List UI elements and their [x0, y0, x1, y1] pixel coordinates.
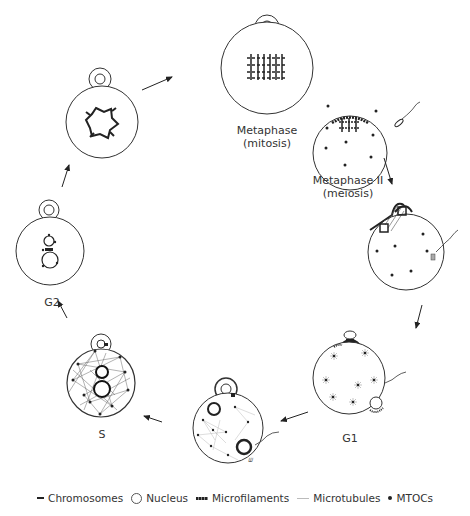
label-metaphase-text: Metaphase	[232, 124, 302, 137]
cell-g2	[16, 200, 84, 285]
cell-pronuclei: ᗯ	[193, 378, 279, 463]
label-s: S	[92, 428, 112, 441]
svg-text:ᗯ: ᗯ	[248, 456, 254, 463]
microfilament-swatch-icon	[196, 497, 208, 500]
nucleus-swatch-icon	[131, 493, 142, 504]
cell-g1	[313, 331, 406, 414]
legend-microfilaments-label: Microfilaments	[212, 492, 289, 504]
sperm	[394, 102, 420, 128]
legend-microfilaments: Microfilaments	[196, 492, 289, 504]
label-metaphase-ii-text: Metaphase II	[308, 174, 388, 187]
legend-microtubules: Microtubules	[297, 492, 380, 504]
label-meiosis-text: (meiosis)	[308, 187, 388, 200]
chromosome-swatch-icon	[37, 497, 44, 499]
label-g1: G1	[338, 432, 362, 445]
label-metaphase-ii-meiosis: Metaphase II (meiosis)	[308, 174, 388, 200]
legend-mtocs-label: MTOCs	[396, 492, 433, 504]
mtoc-swatch-icon	[388, 496, 392, 500]
label-metaphase-mitosis: Metaphase (mitosis)	[232, 124, 302, 150]
cell-s-phase	[67, 334, 135, 417]
label-g2: G2	[40, 296, 64, 309]
label-mitosis-text: (mitosis)	[232, 137, 302, 150]
legend-nucleus-label: Nucleus	[146, 492, 188, 504]
cell-fertilization	[368, 204, 458, 290]
cell-cycle-diagram: ᗯ	[0, 0, 470, 516]
legend-chromosomes-label: Chromosomes	[48, 492, 123, 504]
legend-mtocs: MTOCs	[388, 492, 433, 504]
legend: Chromosomes Nucleus Microfilaments Micro…	[0, 492, 470, 504]
cell-metaphase-mitosis	[221, 15, 313, 114]
cell-prophase	[66, 68, 138, 158]
legend-microtubules-label: Microtubules	[313, 492, 380, 504]
legend-chromosomes: Chromosomes	[37, 492, 123, 504]
legend-nucleus: Nucleus	[131, 492, 188, 504]
microtubule-swatch-icon	[297, 498, 309, 499]
